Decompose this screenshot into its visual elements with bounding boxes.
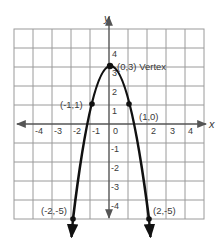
point-label-2-neg5: (2,-5) bbox=[153, 205, 176, 216]
y-tick: 1 bbox=[112, 106, 117, 116]
point-vertex bbox=[107, 63, 113, 69]
point-label-neg1-1: (-1,1) bbox=[60, 99, 83, 110]
x-tick: 2 bbox=[151, 126, 156, 136]
x-tick: -1 bbox=[92, 126, 100, 136]
x-tick: 0 bbox=[113, 126, 118, 136]
y-axis-label: y bbox=[103, 12, 111, 24]
point-neg1-1 bbox=[89, 101, 95, 107]
point-label-1-0: (1,0) bbox=[139, 111, 159, 122]
point-2-neg5 bbox=[146, 216, 152, 222]
y-tick: 2 bbox=[112, 87, 117, 97]
x-tick: -3 bbox=[54, 126, 62, 136]
x-tick: -4 bbox=[35, 126, 43, 136]
y-tick: 4 bbox=[112, 49, 117, 59]
y-tick: -2 bbox=[111, 163, 119, 173]
x-tick: 3 bbox=[170, 126, 175, 136]
x-axis-label: x bbox=[208, 118, 215, 130]
y-tick: -3 bbox=[111, 182, 119, 192]
point-neg2-neg5 bbox=[70, 216, 76, 222]
y-tick: -1 bbox=[111, 144, 119, 154]
data-points bbox=[70, 63, 152, 222]
point-label-neg2-neg5: (-2,-5) bbox=[41, 205, 67, 216]
x-tick-labels: -4 -3 -2 -1 0 2 3 4 bbox=[35, 126, 193, 136]
parabola-chart: y x -4 -3 -2 -1 0 2 3 4 4 3 2 1 -1 -2 -3… bbox=[0, 0, 223, 245]
y-tick: -4 bbox=[111, 201, 119, 211]
x-tick: 4 bbox=[188, 126, 193, 136]
vertex-label: (0,3) Vertex bbox=[117, 61, 166, 72]
point-1-0 bbox=[126, 101, 132, 107]
x-tick: -2 bbox=[73, 126, 81, 136]
